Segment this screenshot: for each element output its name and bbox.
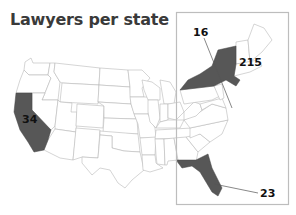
state-nm [73, 128, 100, 160]
state-wy [60, 83, 99, 104]
state-ut [55, 100, 77, 132]
label-ca: 34 [22, 113, 38, 126]
state-fl-highlight [176, 154, 222, 196]
label-fl: 23 [260, 187, 275, 200]
state-ms [155, 139, 165, 165]
state-in [160, 104, 168, 122]
state-ar [140, 137, 156, 155]
state-sd [98, 85, 131, 104]
label-dc: 16 [193, 26, 209, 39]
state-ne [98, 102, 136, 119]
state-nd [99, 68, 130, 87]
state-mi [160, 80, 176, 104]
label-ny: 215 [239, 56, 262, 69]
state-wa [24, 58, 50, 75]
us-map: 34 215 16 23 [0, 0, 296, 215]
state-co [76, 104, 104, 128]
state-mt [54, 63, 100, 85]
